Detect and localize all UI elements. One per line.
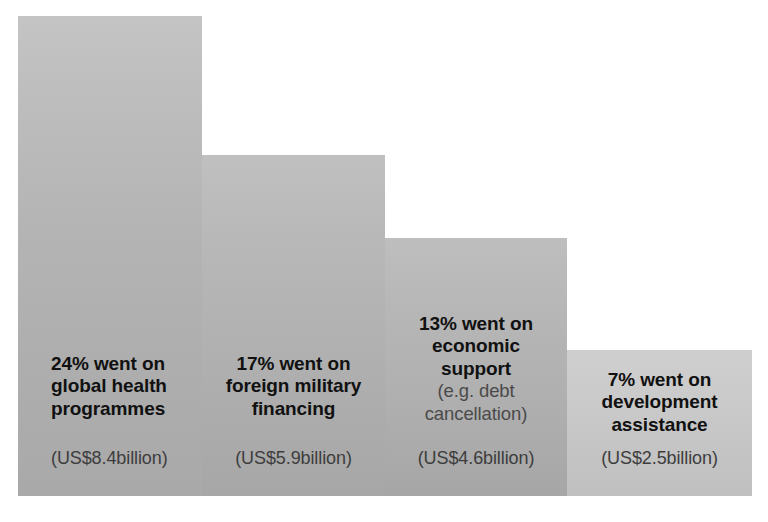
bar-subnote-line: cancellation)	[395, 403, 557, 426]
bar-subnote-line: (e.g. debt	[395, 380, 557, 403]
bar-economic-support: 13% went on economic support (e.g. debt …	[385, 238, 567, 496]
bar-global-health-programmes: 24% went on global health programmes (US…	[18, 16, 202, 496]
bar-headline-line: economic support	[395, 335, 557, 380]
bar-headline-line: 24% went on	[51, 353, 188, 376]
bar-headline-line: 13% went on	[395, 313, 557, 336]
bar-headline-line: development	[577, 391, 742, 414]
bar-amount-label: (US$8.4billion)	[51, 448, 188, 469]
bar-headline-line: foreign military	[214, 375, 373, 398]
bar-amount-label: (US$2.5billion)	[577, 448, 742, 469]
bar-development-assistance: 7% went on development assistance (US$2.…	[567, 350, 752, 496]
bar-foreign-military-financing: 17% went on foreign military financing (…	[202, 155, 385, 496]
bar-chart: 24% went on global health programmes (US…	[0, 0, 768, 522]
bar-amount-label: (US$5.9billion)	[214, 448, 373, 469]
bar-amount-label: (US$4.6billion)	[395, 448, 557, 469]
bar-headline-line: financing	[214, 398, 373, 421]
bar-headline-line: global health	[51, 375, 188, 398]
bar-label-block: 7% went on development assistance	[577, 369, 742, 437]
bar-headline-line: 17% went on	[214, 353, 373, 376]
bar-headline-line: programmes	[51, 398, 188, 421]
bar-label-block: 17% went on foreign military financing	[214, 353, 373, 421]
bar-headline-line: 7% went on	[577, 369, 742, 392]
bar-headline-line: assistance	[577, 414, 742, 437]
bar-label-block: 13% went on economic support (e.g. debt …	[395, 313, 557, 426]
bar-label-block: 24% went on global health programmes	[51, 353, 188, 421]
